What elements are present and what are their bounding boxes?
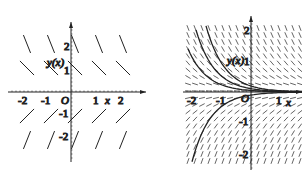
slope-segment	[262, 75, 267, 78]
x-tick-label: -2	[18, 94, 27, 106]
slope-segment	[193, 110, 198, 114]
slope-segment	[207, 68, 212, 72]
slope-segment	[193, 46, 196, 51]
slope-segment	[283, 83, 289, 85]
slope-segment	[221, 54, 224, 59]
slope-segment	[264, 151, 266, 157]
slope-segment	[256, 54, 259, 59]
slope-segment	[185, 75, 190, 78]
slope-segment	[277, 68, 282, 72]
slope-segment	[95, 131, 102, 149]
y-tick-label: -2	[239, 148, 248, 160]
slope-segment	[285, 144, 287, 149]
slope-segment	[222, 137, 225, 142]
slope-segment	[298, 117, 302, 121]
slope-segment	[201, 144, 203, 149]
slope-segment	[284, 110, 289, 114]
y-axis-label: y(x)	[46, 56, 64, 69]
slope-segment	[270, 54, 273, 59]
slope-segment	[298, 124, 302, 129]
slope-segment	[201, 25, 203, 31]
slope-segment	[214, 61, 218, 66]
slope-segment	[242, 130, 245, 135]
slope-segment	[193, 54, 196, 59]
slope-segment	[221, 130, 224, 135]
x-tick-label: 1	[276, 94, 282, 106]
slope-segment	[292, 144, 294, 149]
slope-segment	[257, 25, 259, 31]
slope-segment	[208, 151, 210, 157]
slope-segment	[201, 151, 203, 157]
slope-segment	[270, 110, 275, 114]
slope-segment	[215, 158, 217, 164]
slope-segment	[241, 104, 246, 107]
right-direction-field: -2-1121-1-2Oxy(x)	[183, 16, 302, 170]
y-axis-arrow-icon	[69, 22, 73, 28]
slope-segment	[116, 109, 130, 123]
slope-segment	[199, 83, 205, 85]
slope-segment	[200, 117, 204, 121]
slope-segment	[214, 130, 217, 135]
slope-segment	[263, 117, 267, 121]
slope-segment	[278, 39, 281, 44]
slope-segment	[186, 61, 190, 66]
slope-segment	[199, 75, 204, 78]
slope-segment	[297, 104, 302, 107]
slope-segment	[235, 130, 238, 135]
slope-segment	[242, 46, 245, 51]
slope-segment	[270, 117, 274, 121]
slope-segment	[263, 54, 266, 59]
slope-segment	[187, 151, 189, 157]
slope-segment	[269, 75, 274, 78]
slope-segment	[200, 110, 205, 114]
slope-segment	[116, 61, 130, 75]
slope-segment	[235, 46, 238, 51]
slope-segment	[291, 68, 296, 72]
slope-segment	[292, 151, 294, 157]
slope-segment	[256, 110, 261, 114]
slope-segment	[284, 68, 289, 72]
slope-segment	[20, 61, 34, 75]
slope-segment	[256, 117, 260, 121]
slope-segment	[256, 68, 261, 72]
slope-segment	[229, 158, 231, 164]
slope-segment	[264, 144, 266, 149]
slope-segment	[298, 110, 302, 114]
slope-segment	[187, 158, 189, 164]
slope-segment	[270, 46, 273, 51]
y-tick-label: 2	[244, 24, 250, 36]
slope-segment	[256, 61, 260, 66]
slope-segment	[194, 32, 196, 37]
slope-segment	[255, 83, 261, 85]
slope-segment	[229, 144, 231, 149]
slope-segment	[193, 68, 198, 72]
slope-segment	[256, 46, 259, 51]
slope-segment	[199, 104, 204, 107]
slope-segment	[229, 32, 231, 37]
slope-segment	[236, 144, 238, 149]
slope-segment	[192, 83, 198, 85]
slope-segment	[263, 46, 266, 51]
slope-segment	[207, 130, 210, 135]
slope-segment	[228, 46, 231, 51]
slope-segment	[256, 124, 260, 129]
slope-segment	[269, 104, 274, 107]
slope-segment	[271, 158, 273, 164]
slope-segment	[285, 39, 288, 44]
slope-segment	[214, 124, 218, 129]
slope-segment	[277, 130, 280, 135]
slope-segment	[276, 83, 282, 85]
slope-segment	[264, 25, 266, 31]
slope-segment	[290, 83, 296, 85]
slope-segment	[243, 137, 246, 142]
slope-segment	[263, 68, 268, 72]
slope-segment	[207, 110, 212, 114]
slope-segment	[201, 32, 203, 37]
y-tick-label: 1	[64, 64, 70, 76]
slope-segment	[208, 144, 210, 149]
slope-segment	[298, 68, 302, 72]
slope-segment	[278, 151, 280, 157]
slope-segment	[269, 83, 275, 85]
slope-segment	[222, 158, 224, 164]
slope-segment	[222, 144, 224, 149]
